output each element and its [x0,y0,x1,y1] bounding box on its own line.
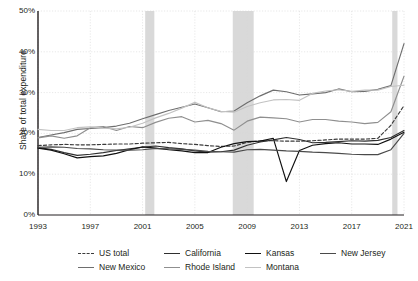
legend-label: New Jersey [341,248,385,258]
x-tick-label: 2021 [384,222,418,231]
legend-item-california[interactable]: California [164,246,221,260]
x-tick-label: 2013 [279,222,319,231]
x-tick-label: 2009 [227,222,267,231]
recession-band [145,11,154,215]
legend-item-us-total[interactable]: US total [78,246,129,260]
legend-swatch-line [320,253,336,254]
legend-item-montana[interactable]: Montana [245,260,299,274]
legend-row-1: US totalCaliforniaKansasNew Jersey [0,246,413,260]
legend-swatch-line [245,253,261,254]
legend-swatch-line [245,267,261,268]
legend-label: Kansas [266,248,294,258]
x-tick-label: 1993 [18,222,58,231]
recession-band [392,11,397,215]
legend-label: New Mexico [99,262,145,272]
legend-label: US total [99,248,129,258]
legend-item-kansas[interactable]: Kansas [245,246,294,260]
chart-legend: US totalCaliforniaKansasNew Jersey New M… [0,246,413,274]
legend-item-new-mexico[interactable]: New Mexico [78,260,145,274]
series-line-rhode-island [38,76,404,138]
legend-item-rhode-island[interactable]: Rhode Island [164,260,235,274]
legend-label: Rhode Island [185,262,235,272]
legend-swatch-line [164,253,180,254]
recession-band [233,11,254,215]
legend-label: Montana [266,262,299,272]
x-tick-label: 1997 [70,222,110,231]
legend-swatch-line [78,253,94,254]
legend-row-2: New MexicoRhode IslandMontana [0,260,413,274]
x-tick-label: 2005 [175,222,215,231]
x-tick-label: 2017 [332,222,372,231]
legend-item-new-jersey[interactable]: New Jersey [320,246,385,260]
legend-swatch-line [78,267,94,268]
x-tick-label: 2001 [123,222,163,231]
legend-swatch-line [164,267,180,268]
legend-label: California [185,248,221,258]
